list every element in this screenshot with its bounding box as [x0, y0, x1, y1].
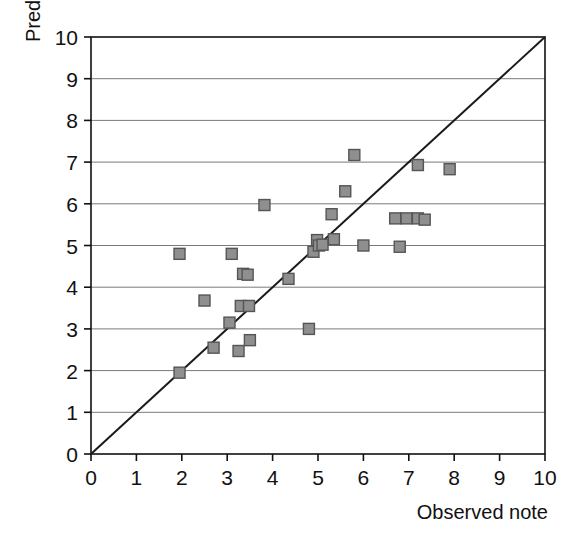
x-tick-label-6: 6	[358, 466, 370, 489]
data-point	[243, 300, 254, 311]
data-point	[394, 241, 405, 252]
x-tick-label-5: 5	[312, 466, 324, 489]
x-tick-label-8: 8	[448, 466, 460, 489]
data-point	[349, 150, 360, 161]
data-point	[244, 335, 255, 346]
x-tick-label-10: 10	[533, 466, 556, 489]
data-point	[419, 214, 430, 225]
data-point	[259, 200, 270, 211]
data-point	[303, 323, 314, 334]
data-point	[226, 248, 237, 259]
data-point	[317, 239, 328, 250]
data-point	[283, 273, 294, 284]
data-point	[242, 269, 253, 280]
data-point	[444, 164, 455, 175]
data-point	[401, 213, 412, 224]
data-point	[340, 186, 351, 197]
data-point	[208, 342, 219, 353]
data-point	[358, 240, 369, 251]
x-tick-label-9: 9	[494, 466, 506, 489]
x-tick-label-7: 7	[403, 466, 415, 489]
scatter-chart: 012345678910 012345678910 Observed note …	[0, 0, 575, 542]
chart-canvas: 012345678910 012345678910 Observed note …	[0, 0, 575, 542]
x-tick-label-2: 2	[176, 466, 188, 489]
y-tick-label-0: 0	[66, 443, 78, 466]
data-point	[199, 295, 210, 306]
x-axis-title: Observed note	[417, 501, 548, 523]
x-tick-label-0: 0	[85, 466, 97, 489]
y-tick-label-9: 9	[66, 68, 78, 91]
y-tick-label-3: 3	[66, 318, 78, 341]
data-point	[224, 317, 235, 328]
data-point	[326, 209, 337, 220]
y-tick-label-7: 7	[66, 151, 78, 174]
y-axis-title: Predictive note	[22, 0, 44, 42]
x-tick-label-3: 3	[221, 466, 233, 489]
x-tick-label-1: 1	[131, 466, 143, 489]
data-point	[390, 213, 401, 224]
y-tick-label-1: 1	[66, 401, 78, 424]
y-tick-label-5: 5	[66, 235, 78, 258]
data-point	[412, 160, 423, 171]
y-tick-label-6: 6	[66, 193, 78, 216]
data-point	[174, 367, 185, 378]
data-point	[328, 234, 339, 245]
data-point	[174, 248, 185, 259]
data-point	[233, 346, 244, 357]
y-tick-label-2: 2	[66, 360, 78, 383]
y-tick-label-10: 10	[55, 26, 78, 49]
y-tick-label-8: 8	[66, 109, 78, 132]
y-tick-label-4: 4	[66, 276, 78, 299]
x-tick-label-4: 4	[267, 466, 279, 489]
chart-background	[0, 0, 575, 542]
